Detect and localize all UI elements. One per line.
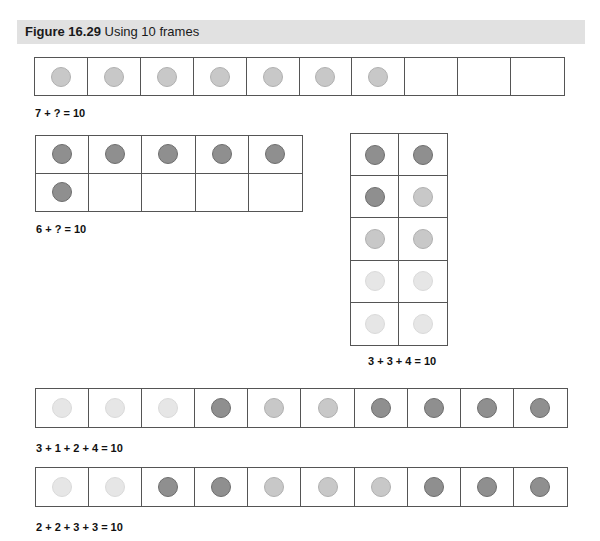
frame-cell [195, 468, 248, 506]
counter-dot-medium [413, 229, 433, 249]
frame-cell [88, 58, 141, 95]
counter-dot-dark [530, 477, 550, 497]
ten-frame-3-1-2-4 [35, 388, 568, 428]
counter-dot-medium [318, 398, 338, 418]
frame-cell [461, 389, 514, 427]
frame-cell [399, 134, 447, 176]
frame-cell [355, 389, 408, 427]
counter-dot-light [413, 271, 433, 291]
counter-dot-medium [104, 67, 124, 87]
frame-cell [405, 58, 458, 95]
frame-cell [89, 136, 142, 174]
frame-cell [408, 468, 461, 506]
frame-cell [36, 389, 89, 427]
counter-dot-light [105, 477, 125, 497]
frame-cell [458, 58, 511, 95]
equation-7-plus: 7 + ? = 10 [35, 107, 85, 119]
counter-dot-medium [264, 477, 284, 497]
frame-cell [35, 58, 88, 95]
frame-cell [399, 218, 447, 260]
frame-cell [142, 468, 195, 506]
frame-cell [514, 468, 567, 506]
frame-cell [351, 176, 399, 218]
frame-cell [247, 58, 300, 95]
counter-dot-medium [263, 67, 283, 87]
frame-cell [89, 468, 142, 506]
ten-frame-3-3-4 [350, 133, 448, 346]
counter-dot-medium [371, 477, 391, 497]
frame-cell [248, 468, 301, 506]
frame-cell [408, 389, 461, 427]
counter-dot-dark [477, 477, 497, 497]
frame-cell [142, 174, 195, 212]
frame-cell [355, 468, 408, 506]
frame-cell [399, 176, 447, 218]
counter-dot-dark [365, 187, 385, 207]
frame-cell [89, 389, 142, 427]
figure-caption: Figure 16.29 Using 10 frames [25, 24, 199, 39]
frame-cell [511, 58, 564, 95]
equation-3-1-2-4: 3 + 1 + 2 + 4 = 10 [36, 442, 123, 454]
frame-cell [514, 389, 567, 427]
frame-cell [142, 136, 195, 174]
counter-dot-dark [52, 182, 72, 202]
ten-frame-2-2-3-3 [35, 467, 568, 507]
figure-number: Figure 16.29 [25, 24, 101, 39]
frame-cell [351, 303, 399, 345]
counter-dot-dark [105, 144, 125, 164]
frame-cell [351, 218, 399, 260]
frame-cell [301, 389, 354, 427]
counter-dot-medium [315, 67, 335, 87]
frame-cell [352, 58, 405, 95]
counter-dot-dark [424, 398, 444, 418]
counter-dot-dark [371, 398, 391, 418]
counter-dot-light [365, 271, 385, 291]
counter-dot-dark [211, 477, 231, 497]
counter-dot-light [52, 398, 72, 418]
counter-dot-medium [368, 67, 388, 87]
ten-frame-7-plus [34, 57, 565, 96]
counter-dot-dark [265, 144, 285, 164]
counter-dot-medium [51, 67, 71, 87]
frame-cell [195, 389, 248, 427]
frame-cell [36, 468, 89, 506]
counter-dot-light [105, 398, 125, 418]
equation-2-2-3-3: 2 + 2 + 3 + 3 = 10 [36, 521, 123, 533]
counter-dot-medium [210, 67, 230, 87]
frame-cell [301, 468, 354, 506]
frame-cell [399, 303, 447, 345]
frame-cell [141, 58, 194, 95]
counter-dot-light [52, 477, 72, 497]
frame-cell [399, 261, 447, 303]
counter-dot-dark [530, 398, 550, 418]
counter-dot-dark [424, 477, 444, 497]
frame-cell [142, 389, 195, 427]
counter-dot-light [158, 398, 178, 418]
counter-dot-medium [264, 398, 284, 418]
frame-cell [351, 134, 399, 176]
counter-dot-medium [318, 477, 338, 497]
counter-dot-dark [477, 398, 497, 418]
frame-cell [248, 389, 301, 427]
counter-dot-medium [365, 229, 385, 249]
frame-cell [461, 468, 514, 506]
frame-cell [36, 136, 89, 174]
frame-cell [196, 136, 249, 174]
equation-3-3-4: 3 + 3 + 4 = 10 [368, 355, 436, 367]
frame-cell [249, 136, 302, 174]
counter-dot-dark [211, 398, 231, 418]
counter-dot-dark [158, 477, 178, 497]
frame-cell [351, 261, 399, 303]
counter-dot-light [365, 314, 385, 334]
counter-dot-dark [158, 144, 178, 164]
frame-cell [249, 174, 302, 212]
figure-title: Using 10 frames [105, 24, 200, 39]
counter-dot-medium [157, 67, 177, 87]
frame-cell [194, 58, 247, 95]
figure-caption-banner: Figure 16.29 Using 10 frames [17, 20, 585, 44]
counter-dot-dark [212, 144, 232, 164]
counter-dot-medium [413, 187, 433, 207]
counter-dot-dark [52, 144, 72, 164]
frame-cell [196, 174, 249, 212]
counter-dot-dark [413, 145, 433, 165]
